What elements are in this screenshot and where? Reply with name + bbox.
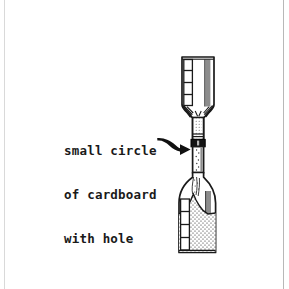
caption-line-1: small circle <box>64 144 176 159</box>
neck-joint-group <box>191 118 205 173</box>
figure-canvas: small circle of cardboard with hole <box>0 0 289 289</box>
upper-bottle-highlight-band <box>205 60 210 107</box>
upper-bottle-highlight-edge <box>204 60 205 107</box>
upper-neck-sand <box>194 119 201 139</box>
lower-neck-highlight <box>200 148 202 172</box>
caption-text: small circle of cardboard with hole <box>64 115 176 276</box>
cardboard-disc-hole <box>197 141 199 146</box>
lower-bottle-group <box>179 173 216 253</box>
caption-line-3: with hole <box>64 232 176 247</box>
caption-line-2: of cardboard <box>64 188 176 203</box>
